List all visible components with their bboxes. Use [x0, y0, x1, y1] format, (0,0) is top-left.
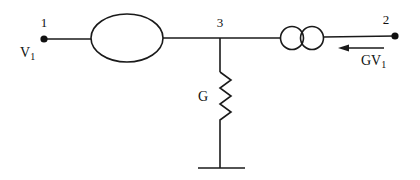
g-label: G: [198, 89, 208, 104]
gv1-label-main: GV: [361, 53, 381, 68]
node-2-dot: [391, 32, 398, 39]
node-3-label: 3: [217, 15, 224, 30]
impedance-ellipse: [91, 14, 163, 62]
current-arrow-head: [338, 45, 349, 52]
gv1-label-sub: 1: [381, 59, 386, 70]
wire-transformer-node2: [324, 36, 396, 37]
v1-label-main: V: [20, 45, 30, 60]
circuit-diagram: 1 3 2 V1 GV1 G: [0, 0, 420, 180]
v1-label: V1: [20, 45, 35, 62]
node-1-label: 1: [41, 15, 48, 30]
v1-label-sub: 1: [30, 51, 35, 62]
node-1-dot: [40, 35, 47, 42]
node-2-label: 2: [383, 12, 390, 27]
gv1-label: GV1: [361, 53, 386, 70]
resistor-g: [220, 72, 231, 122]
